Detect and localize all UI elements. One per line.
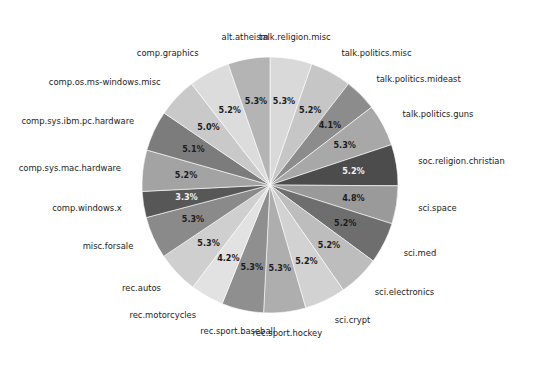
pie-category-label: rec.motorcycles xyxy=(129,310,196,320)
pie-category-label: misc.forsale xyxy=(83,241,134,251)
pie-slice-percent: 5.2% xyxy=(175,170,197,180)
pie-slice-percent: 5.3% xyxy=(333,140,355,150)
pie-slices-group xyxy=(142,57,398,313)
pie-category-label: comp.os.ms-windows.misc xyxy=(49,77,161,87)
pie-category-label: sci.med xyxy=(404,248,437,258)
pie-category-label: sci.electronics xyxy=(375,287,434,297)
pie-slice-percent: 3.3% xyxy=(175,192,197,202)
pie-slice-percent: 5.2% xyxy=(342,166,364,176)
pie-category-label: sci.crypt xyxy=(335,315,371,325)
pie-slice-percent: 5.3% xyxy=(273,96,295,106)
pie-category-label: talk.politics.misc xyxy=(341,48,411,58)
pie-chart-figure: 5.3%5.2%4.1%5.3%5.2%4.8%5.2%5.2%5.2%5.3%… xyxy=(0,0,538,368)
pie-category-label: rec.sport.baseball xyxy=(200,326,275,336)
pie-slice-percent: 5.2% xyxy=(295,256,317,266)
pie-slice-percent: 4.1% xyxy=(319,120,341,130)
pie-category-label: alt.atheism xyxy=(222,32,269,42)
pie-slice-percent: 5.2% xyxy=(318,240,340,250)
pie-category-label: rec.autos xyxy=(122,283,161,293)
pie-slice-percent: 5.3% xyxy=(241,262,263,272)
pie-category-label: comp.sys.mac.hardware xyxy=(19,163,121,173)
pie-slice-percent: 5.1% xyxy=(182,144,204,154)
pie-category-label: comp.sys.ibm.pc.hardware xyxy=(21,116,134,126)
pie-slice-percent: 5.2% xyxy=(334,218,356,228)
pie-slice-percent: 4.8% xyxy=(342,193,364,203)
pie-slice-percent: 5.3% xyxy=(197,238,219,248)
pie-category-label: comp.windows.x xyxy=(52,203,122,213)
pie-slice-percent: 5.2% xyxy=(299,105,321,115)
pie-slice-percent: 5.2% xyxy=(219,105,241,115)
pie-category-label: sci.space xyxy=(418,203,457,213)
pie-category-label: talk.politics.guns xyxy=(403,109,474,119)
pie-category-label: comp.graphics xyxy=(137,48,199,58)
pie-chart-canvas: 5.3%5.2%4.1%5.3%5.2%4.8%5.2%5.2%5.2%5.3%… xyxy=(0,0,538,368)
pie-category-label: soc.religion.christian xyxy=(418,156,505,166)
pie-slice-percent: 5.3% xyxy=(269,263,291,273)
pie-slice-percent: 5.0% xyxy=(197,122,219,132)
pie-slice-percent: 4.2% xyxy=(217,253,239,263)
pie-category-label: talk.religion.misc xyxy=(259,32,331,42)
pie-category-label: talk.politics.mideast xyxy=(376,74,461,84)
pie-slice-percent: 5.3% xyxy=(245,96,267,106)
pie-slice-percent: 5.3% xyxy=(182,214,204,224)
